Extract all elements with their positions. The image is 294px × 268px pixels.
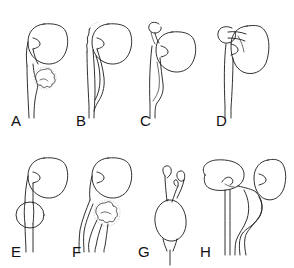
panel-d-group: D [216,26,269,129]
panel-e-group: E [11,158,68,260]
panel-g-bladder-neck-left [163,239,167,251]
panel-e-renal-hilum [33,172,40,183]
panel-h-ectopic-pelvis-detail [225,184,234,187]
panel-f-group: F [72,158,132,260]
panel-label-g: G [138,243,150,260]
panel-g-ureteral-bud-3-tip [177,171,185,181]
panel-a-renal-pelvis [33,49,38,64]
panel-f-renal-pelvis [90,176,92,200]
panel-d-renal-hilum [231,44,238,55]
panel-h-orthotopic-kidney-outline [254,159,286,199]
panel-g-ureteral-bud-1 [165,176,167,201]
panel-c-kidney-outline [156,32,196,72]
panel-b-ureter-limb-two-inner [95,56,100,100]
panel-g-ureteral-bud-2-tip [174,180,178,186]
panel-b-kidney-outline [92,24,132,64]
panel-a-renal-hilum [33,38,40,49]
panel-a-ureter-left [27,66,29,118]
panel-a-kidney-outline [28,24,68,64]
panel-e-circumcaval-ring [16,202,44,228]
panel-g-bladder-outline [155,200,186,241]
panel-h-crossing-ureter-outer [239,192,262,255]
panel-f-ureter-branch-4 [95,224,102,252]
panel-a-group: A [11,24,68,129]
panel-label-d: D [216,112,227,129]
panel-d-renal-pelvis-internal [238,36,244,52]
panel-e-ureter-through-ring-left [24,202,25,224]
panel-g-group: G [138,166,186,265]
panel-b-ureter-limb-one-left [87,52,89,118]
panel-d-diverticulum-neck-upper [228,32,246,34]
panel-f-ureter-branch-5 [104,224,108,252]
panel-c-ureter-left [150,46,152,118]
panel-a-ureter-right [33,64,38,118]
panel-c-group: C [140,22,196,129]
panel-d-ureter-left [224,44,226,118]
panel-h-fusion-isthmus [238,186,256,192]
panel-e-ureter-upper-left [25,176,28,202]
panel-b-renal-hilum [97,38,104,49]
panel-d-kidney-outline [231,26,269,74]
panel-a-lobulated-mass [36,69,55,88]
panel-h-ectopic-hilum [222,177,233,185]
panel-h-orthotopic-hilum [259,174,266,185]
panel-f-renal-hilum [97,172,104,183]
panel-g-ureteral-bud-2 [172,186,178,202]
panel-label-a: A [11,112,21,129]
panel-e-ureter-lower-left [25,224,26,252]
panel-h-crossing-ureter-inner [245,197,262,255]
panel-c-renal-hilum [161,46,168,57]
panel-d-diverticulum-neck-lower [228,38,245,41]
panel-b-group: B [76,22,132,129]
panel-label-b: B [76,112,86,129]
panel-h-second-crossing-limb [235,190,249,255]
panel-h-group: H [200,159,286,260]
panel-label-e: E [11,243,21,260]
panel-c-upper-infundibulum [155,33,159,43]
panel-c-duplication-fusion [153,62,159,101]
panel-label-c: C [140,112,151,129]
figure-container: A B [0,0,294,268]
panel-c-upper-infundibulum-second [151,32,155,44]
panel-a-pelvis-lateral [26,42,28,66]
panel-label-h: H [200,243,211,260]
panel-e-kidney-outline [28,158,68,198]
panel-label-f: F [72,243,81,260]
anatomy-figure-svg: A B [0,0,294,268]
panel-b-crenated-pelvis [87,28,90,52]
panel-d-ureter-right [231,58,233,118]
panel-f-kidney-outline [92,158,132,198]
panel-e-ureter-through-ring-right [33,202,34,224]
panel-g-ureteral-bud-1-tip [163,166,171,178]
panel-c-upper-pole-moiety [149,22,161,33]
